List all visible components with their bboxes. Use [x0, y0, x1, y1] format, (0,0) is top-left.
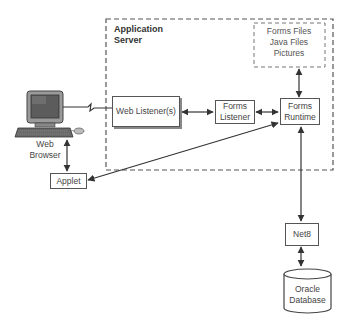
forms-runtime-label-line2: Runtime: [284, 112, 316, 123]
applet-node[interactable]: Applet: [50, 173, 87, 189]
forms-listener-node[interactable]: Forms Listener: [215, 100, 255, 124]
files-item-java: Java Files: [254, 37, 324, 48]
forms-runtime-label-line1: Forms: [288, 101, 312, 112]
title-line-1: Application: [114, 24, 163, 35]
net8-node[interactable]: Net8: [285, 223, 319, 246]
forms-listener-label-line1: Forms: [223, 101, 247, 112]
files-store: Forms Files Java Files Pictures: [254, 26, 324, 59]
desktop-computer-icon: [15, 91, 84, 137]
files-item-forms: Forms Files: [254, 26, 324, 37]
oracle-database-node[interactable]: Oracle Database: [284, 284, 331, 306]
files-item-pictures: Pictures: [254, 48, 324, 59]
web-browser-label: Web Browser: [24, 139, 66, 161]
web-listener-label: Web Listener(s): [116, 106, 176, 117]
title-line-2: Server: [114, 35, 163, 46]
forms-runtime-node[interactable]: Forms Runtime: [280, 98, 320, 125]
web-browser-label-line1: Web: [24, 139, 66, 150]
database-label-line1: Oracle: [284, 284, 331, 295]
database-label-line2: Database: [284, 295, 331, 306]
application-server-title: Application Server: [114, 24, 163, 46]
web-listener-node[interactable]: Web Listener(s): [112, 96, 180, 127]
architecture-diagram: Application Server Forms Files Java File…: [0, 0, 351, 323]
web-browser-label-line2: Browser: [24, 150, 66, 161]
net8-label: Net8: [293, 229, 311, 240]
applet-label: Applet: [56, 176, 80, 187]
network-link: [63, 104, 112, 111]
forms-listener-label-line2: Listener: [220, 112, 250, 123]
